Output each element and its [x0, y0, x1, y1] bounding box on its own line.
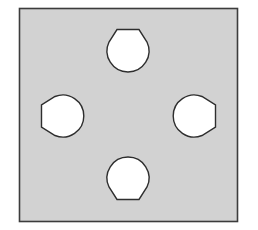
hole-left — [42, 95, 84, 137]
plate-diagram — [0, 0, 258, 230]
hole-top — [107, 30, 149, 72]
hole-bottom — [107, 157, 149, 199]
hole-right — [173, 95, 215, 137]
